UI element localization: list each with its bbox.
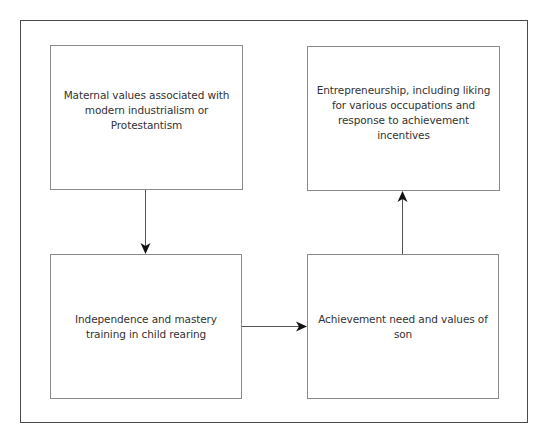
- node-label: Maternal values associated with modern i…: [51, 88, 242, 147]
- node-maternal-values: Maternal values associated with modern i…: [50, 45, 243, 190]
- node-label: Achievement need and values of son: [308, 312, 498, 342]
- node-label: Entrepreneurship, including liking for v…: [308, 83, 499, 155]
- node-entrepreneurship: Entrepreneurship, including liking for v…: [307, 46, 500, 191]
- node-achievement-need: Achievement need and values of son: [307, 254, 499, 399]
- node-independence-training: Independence and mastery training in chi…: [50, 254, 242, 399]
- node-label: Independence and mastery training in chi…: [51, 312, 241, 342]
